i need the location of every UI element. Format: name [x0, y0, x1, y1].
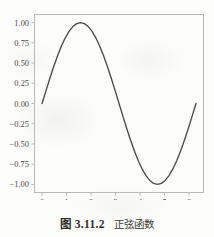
x-tick-label: 1 — [64, 198, 68, 200]
caption-figure-number: 图 3.11.2 — [60, 218, 104, 230]
y-tick-label: −1.00 — [10, 180, 29, 189]
sine-plot-svg: 1.000.750.500.250.00−0.25−0.50−0.75−1.00… — [0, 0, 214, 200]
x-tick-label: 6 — [187, 198, 191, 200]
y-tick-label: 0.00 — [14, 100, 29, 109]
x-tick-label: 5 — [162, 198, 166, 200]
x-tick-label: 4 — [138, 198, 143, 200]
y-tick-label: 0.50 — [14, 59, 29, 68]
y-tick-label: −0.75 — [10, 160, 29, 169]
y-tick-label: 1.00 — [14, 19, 29, 28]
figure-container: 1.000.750.500.250.00−0.25−0.50−0.75−1.00… — [0, 0, 214, 237]
plot-area: 1.000.750.500.250.00−0.25−0.50−0.75−1.00… — [0, 0, 214, 200]
x-tick-label: 0 — [40, 198, 44, 200]
y-tick-label: 0.25 — [14, 79, 29, 88]
sine-curve — [42, 23, 196, 185]
x-tick-label: 3 — [113, 198, 117, 200]
y-tick-label: 0.75 — [14, 39, 29, 48]
y-tick-label: −0.25 — [10, 120, 29, 129]
x-tick-label: 2 — [89, 198, 93, 200]
caption-figure-title: 正弦函数 — [114, 219, 154, 230]
figure-caption: 图 3.11.2正弦函数 — [0, 214, 214, 232]
y-tick-label: −0.50 — [10, 140, 29, 149]
